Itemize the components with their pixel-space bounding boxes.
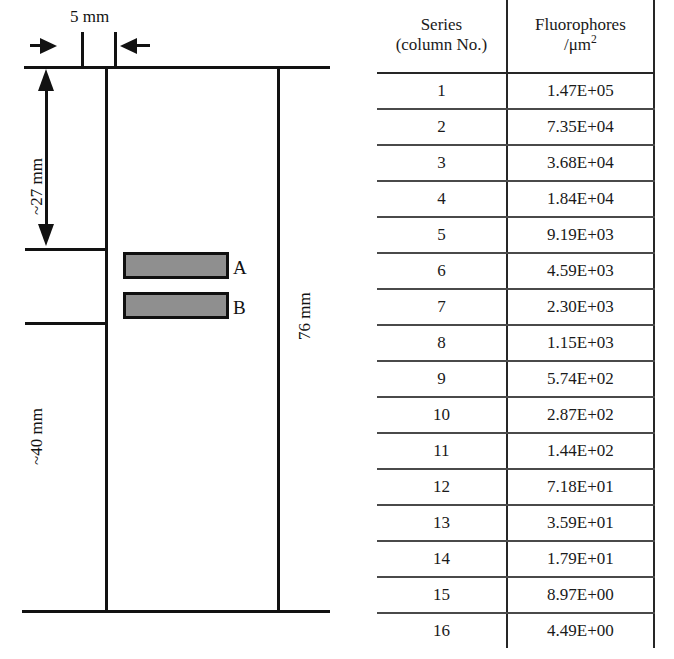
table-head: Series (column No.) Fluorophores /μm2 [377, 0, 654, 73]
cell-series: 4 [377, 181, 507, 217]
fluorophore-density-table-wrap: Series (column No.) Fluorophores /μm2 11… [377, 0, 657, 659]
cell-series: 13 [377, 505, 507, 541]
table-row: 64.59E+03 [377, 253, 654, 289]
cell-density: 1.44E+02 [507, 433, 654, 469]
table-row: 127.18E+01 [377, 469, 654, 505]
cell-density: 2.87E+02 [507, 397, 654, 433]
arrow-27mm-down [38, 224, 54, 246]
cell-series: 10 [377, 397, 507, 433]
column-header-series: Series (column No.) [377, 0, 507, 73]
table-row: 111.44E+02 [377, 433, 654, 469]
cell-density: 2.30E+03 [507, 289, 654, 325]
dimension-label-27mm: ~27 mm [28, 158, 45, 215]
extension-line-lower [25, 322, 107, 325]
cell-density: 7.35E+04 [507, 109, 654, 145]
column-header-density-line1: Fluorophores [508, 15, 653, 35]
column-header-density-unit: /μm [564, 35, 591, 54]
cell-series: 9 [377, 361, 507, 397]
cell-series: 1 [377, 73, 507, 109]
arrow-5mm-left [120, 38, 137, 54]
cell-density: 3.68E+04 [507, 145, 654, 181]
cell-density: 4.59E+03 [507, 253, 654, 289]
cell-series: 7 [377, 289, 507, 325]
table-header-row: Series (column No.) Fluorophores /μm2 [377, 0, 654, 73]
cell-density: 9.19E+03 [507, 217, 654, 253]
tick-left-vertical [81, 32, 84, 68]
cell-density: 1.79E+01 [507, 541, 654, 577]
cell-density: 4.49E+00 [507, 613, 654, 648]
cell-series: 12 [377, 469, 507, 505]
cell-series: 11 [377, 433, 507, 469]
cell-density: 1.47E+05 [507, 73, 654, 109]
table-row: 81.15E+03 [377, 325, 654, 361]
column-header-density-exponent: 2 [591, 33, 597, 46]
dimension-label-40mm: ~40 mm [28, 408, 45, 465]
column-header-series-line1: Series [377, 15, 506, 35]
cell-series: 5 [377, 217, 507, 253]
cell-series: 16 [377, 613, 507, 648]
arrow-5mm-left-stem [30, 44, 44, 47]
cell-series: 15 [377, 577, 507, 613]
table-row: 27.35E+04 [377, 109, 654, 145]
cell-series: 14 [377, 541, 507, 577]
table-row: 95.74E+02 [377, 361, 654, 397]
slide-right-edge [277, 66, 280, 613]
table-body: 11.47E+0527.35E+0433.68E+0441.84E+0459.1… [377, 73, 654, 648]
arrow-5mm-right-stem [136, 44, 150, 47]
slide-bottom-edge [22, 610, 330, 613]
cell-density: 5.74E+02 [507, 361, 654, 397]
table-row: 59.19E+03 [377, 217, 654, 253]
cell-density: 7.18E+01 [507, 469, 654, 505]
table-row: 158.97E+00 [377, 577, 654, 613]
column-header-density: Fluorophores /μm2 [507, 0, 654, 73]
slide-top-edge [24, 66, 330, 69]
cell-density: 8.97E+00 [507, 577, 654, 613]
table-row: 141.79E+01 [377, 541, 654, 577]
table-row: 33.68E+04 [377, 145, 654, 181]
cell-density: 1.84E+04 [507, 181, 654, 217]
table-row: 133.59E+01 [377, 505, 654, 541]
column-header-series-line2: (column No.) [377, 35, 506, 55]
extension-line-upper [25, 248, 107, 251]
cell-series: 6 [377, 253, 507, 289]
table-row: 164.49E+00 [377, 613, 654, 648]
table-row: 102.87E+02 [377, 397, 654, 433]
fluorophore-density-table: Series (column No.) Fluorophores /μm2 11… [377, 0, 655, 648]
slide-left-edge [105, 66, 108, 613]
column-header-density-line2: /μm2 [508, 35, 653, 55]
patch-label-b: B [233, 298, 246, 317]
dimension-label-5mm: 5 mm [70, 8, 109, 25]
printed-patch-b [123, 292, 229, 319]
cell-series: 2 [377, 109, 507, 145]
cell-series: 3 [377, 145, 507, 181]
slide-schematic: 5 mm ~27 mm ~40 mm 76 mm A B [0, 0, 370, 659]
figure-root: 5 mm ~27 mm ~40 mm 76 mm A B [0, 0, 674, 659]
dimension-label-76mm: 76 mm [296, 292, 313, 340]
cell-density: 1.15E+03 [507, 325, 654, 361]
table-row: 41.84E+04 [377, 181, 654, 217]
patch-label-a: A [233, 258, 247, 277]
printed-patch-a [123, 252, 229, 279]
table-row: 11.47E+05 [377, 73, 654, 109]
cell-series: 8 [377, 325, 507, 361]
cell-density: 3.59E+01 [507, 505, 654, 541]
table-row: 72.30E+03 [377, 289, 654, 325]
tick-right-vertical [114, 32, 117, 68]
